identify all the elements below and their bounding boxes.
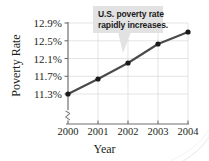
y-axis-title: Poverty Rate xyxy=(9,21,24,111)
data-point xyxy=(95,76,100,81)
poverty-rate-line-chart: 12.9% 12.5% 12.1% 11.7% 11.3% 2000 2001 … xyxy=(0,0,209,161)
x-axis-title: Year xyxy=(0,142,209,157)
data-point xyxy=(65,91,70,96)
callout-line-1: U.S. poverty rate xyxy=(98,9,159,20)
x-tick-label-4: 2004 xyxy=(168,126,208,137)
data-point xyxy=(155,41,160,46)
data-point xyxy=(185,29,190,34)
data-point xyxy=(125,60,130,65)
callout-line-2: rapidly increases. xyxy=(98,20,159,31)
callout-annotation: U.S. poverty rate rapidly increases. xyxy=(93,6,163,33)
